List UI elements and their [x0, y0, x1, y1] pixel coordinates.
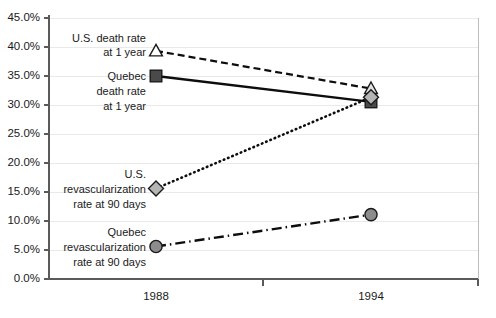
- label-line: death rate: [96, 85, 146, 97]
- marker-quebec-death-rate-1988: [150, 70, 162, 82]
- label-line: U.S.: [125, 168, 146, 180]
- label-line: Quebec: [107, 226, 146, 238]
- label-line: revascularization: [63, 183, 146, 195]
- label-line: at 1 year: [103, 46, 146, 58]
- line-chart: 45.0% 40.0% 35.0% 30.0% 25.0% 20.0% 15.0…: [0, 0, 496, 318]
- y-tick-label: 45.0%: [7, 11, 40, 23]
- y-tick-label: 5.0%: [14, 243, 40, 255]
- label-line: U.S. death rate: [72, 32, 146, 44]
- y-tick-label: 15.0%: [7, 185, 40, 197]
- label-line: Quebec: [107, 70, 146, 82]
- y-tick-label: 10.0%: [7, 214, 40, 226]
- x-tick-label-1994: 1994: [358, 290, 384, 302]
- marker-quebec-revascularization-1994: [365, 209, 377, 221]
- y-tick-label: 20.0%: [7, 156, 40, 168]
- y-tick-label: 40.0%: [7, 40, 40, 52]
- chart-background: [0, 0, 496, 318]
- label-line: at 1 year: [103, 100, 146, 112]
- y-tick-label: 30.0%: [7, 98, 40, 110]
- label-line: rate at 90 days: [73, 198, 146, 210]
- label-line: rate at 90 days: [73, 256, 146, 268]
- label-line: revascularization: [63, 241, 146, 253]
- x-tick-label-1988: 1988: [143, 290, 169, 302]
- chart-container: 45.0% 40.0% 35.0% 30.0% 25.0% 20.0% 15.0…: [0, 0, 496, 318]
- y-tick-label: 35.0%: [7, 69, 40, 81]
- y-tick-label: 25.0%: [7, 127, 40, 139]
- marker-quebec-revascularization-1988: [150, 240, 162, 252]
- y-tick-label: 0.0%: [14, 272, 40, 284]
